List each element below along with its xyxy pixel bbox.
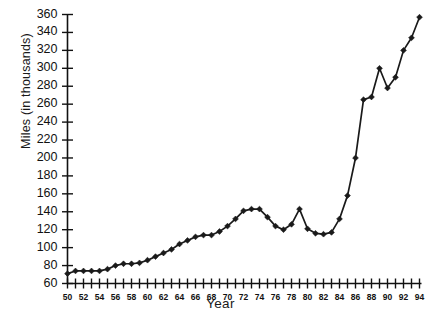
data-point-marker [137, 260, 143, 266]
data-point-marker [73, 268, 79, 274]
data-series-line [68, 17, 420, 273]
data-point-marker [345, 193, 351, 199]
data-point-marker [321, 231, 327, 237]
data-point-marker [361, 97, 367, 103]
data-point-marker [129, 261, 135, 267]
data-point-marker [185, 238, 191, 244]
data-point-marker [81, 268, 87, 274]
data-point-marker [121, 261, 127, 267]
data-point-marker [353, 155, 359, 161]
data-point-marker [201, 232, 207, 238]
data-point-marker [209, 232, 215, 238]
data-point-marker [161, 250, 167, 256]
data-point-marker [249, 206, 255, 212]
data-point-marker [89, 268, 95, 274]
data-point-marker [97, 268, 103, 274]
data-point-marker [105, 266, 111, 272]
data-point-marker [297, 206, 303, 212]
data-point-marker [113, 263, 119, 269]
data-point-marker [369, 94, 375, 100]
data-point-marker [377, 65, 383, 71]
chart-figure: Miles (in thousands) Year 60801001201401… [0, 0, 441, 316]
data-point-marker [417, 14, 423, 20]
data-point-marker [153, 254, 159, 260]
line-chart-plot [0, 0, 441, 316]
data-point-marker [145, 257, 151, 263]
data-point-marker [193, 234, 199, 240]
data-point-marker [65, 271, 71, 277]
